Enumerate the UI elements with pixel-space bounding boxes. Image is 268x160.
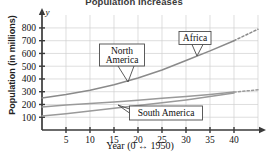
svg-text:300: 300 [22, 87, 37, 97]
svg-text:America: America [106, 55, 139, 65]
chart-container: Population Increases Population (in mill… [0, 0, 268, 160]
svg-text:40: 40 [229, 135, 239, 145]
svg-text:200: 200 [22, 100, 37, 110]
svg-text:30: 30 [181, 135, 191, 145]
y-tick-labels: 100200300400500600700800 [22, 23, 37, 122]
svg-text:15: 15 [109, 135, 119, 145]
chart-plot-area: y 100200300400500600700800 5101520253035… [0, 0, 268, 160]
svg-text:100: 100 [22, 113, 37, 123]
svg-text:600: 600 [22, 49, 37, 59]
data-series-group [42, 29, 258, 116]
svg-text:5: 5 [64, 135, 69, 145]
svg-text:25: 25 [157, 135, 167, 145]
svg-text:800: 800 [22, 23, 37, 33]
svg-text:35: 35 [205, 135, 215, 145]
svg-text:y: y [45, 7, 50, 17]
annotation-callouts: NorthAmericaAfricaSouth America [100, 32, 212, 121]
svg-text:South America: South America [138, 108, 196, 118]
svg-text:20: 20 [133, 135, 143, 145]
svg-text:Africa: Africa [183, 33, 208, 43]
svg-text:700: 700 [22, 36, 37, 46]
svg-text:500: 500 [22, 62, 37, 72]
svg-text:10: 10 [85, 135, 95, 145]
x-tick-labels: 510152025303540 [64, 135, 239, 145]
svg-text:400: 400 [22, 74, 37, 84]
